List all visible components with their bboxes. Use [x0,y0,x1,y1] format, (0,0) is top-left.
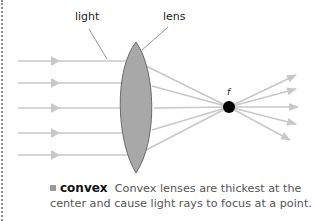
caption-line-2: center and cause light rays to focus at … [50,197,312,210]
caption-line-1: Convex lenses are thickest at the [115,182,302,195]
focal-point-dot [223,101,235,113]
focal-point-label: f [227,87,230,97]
converging-rays [146,66,229,150]
caption: convex Convex lenses are thickest at the… [50,181,315,211]
lens-label: lens [163,10,186,23]
bullet-icon [50,185,56,191]
light-leader-line [89,29,107,59]
incoming-rays [18,61,128,155]
incoming-ray-arrowheads [51,56,60,160]
diverging-rays [229,75,298,140]
lens-leader-line [142,27,168,50]
caption-term: convex [60,181,108,195]
light-label: light [75,10,99,23]
